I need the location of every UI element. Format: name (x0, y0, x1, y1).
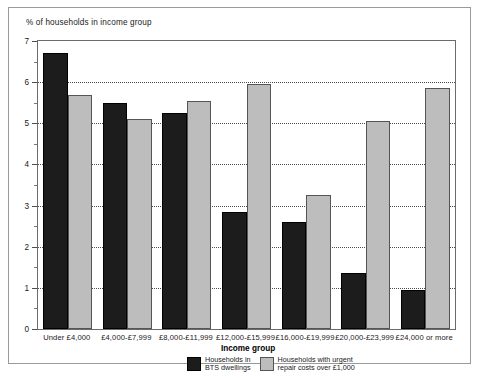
x-tick-label: £8,000-£11,999 (159, 333, 213, 342)
bar-repair-5 (366, 121, 391, 329)
bar-repair-3 (247, 84, 272, 329)
bar-bts-4 (282, 222, 307, 329)
y-tick-label: 4 (24, 160, 29, 169)
bar-repair-2 (187, 101, 212, 329)
chart-legend: Households in BTS dwellingsHouseholds wi… (187, 356, 355, 373)
y-tick-label: 7 (24, 37, 29, 46)
x-tick-label: £20,000-£23,999 (335, 333, 394, 342)
bar-bts-2 (162, 113, 187, 329)
legend-item: Households in BTS dwellings (187, 356, 251, 373)
legend-swatch-dark (187, 357, 201, 371)
bar-repair-6 (425, 88, 450, 329)
plot-inner (38, 41, 455, 329)
chart-y-axis-caption: % of households in income group (26, 18, 152, 27)
plot-area (37, 40, 456, 330)
bar-repair-4 (306, 195, 331, 329)
bar-repair-0 (68, 95, 93, 330)
bar-bts-1 (103, 103, 128, 329)
x-tick-label: £4,000-£7,999 (101, 333, 151, 342)
y-tick-label: 2 (24, 242, 29, 251)
y-axis: 01234567 (9, 40, 37, 330)
y-tick-label: 1 (24, 283, 29, 292)
y-tick-label: 3 (24, 201, 29, 210)
x-tick-label: £16,000-£19,999 (276, 333, 335, 342)
legend-label: Households with urgent repair costs over… (278, 356, 355, 373)
y-tick-label: 6 (24, 78, 29, 87)
legend-label: Households in BTS dwellings (205, 356, 251, 373)
legend-item: Households with urgent repair costs over… (260, 356, 355, 373)
bar-bts-5 (341, 273, 366, 329)
figure-frame: % of households in income group 01234567… (8, 7, 471, 364)
bar-bts-6 (401, 290, 426, 329)
x-tick-label: £12,000-£15,999 (216, 333, 275, 342)
bar-bts-0 (43, 53, 68, 329)
gridline (38, 82, 455, 83)
y-tick-label: 0 (24, 325, 29, 334)
x-axis-title: Income group (221, 344, 275, 353)
x-tick-label: £24,000 or more (396, 333, 453, 342)
y-tick-label: 5 (24, 119, 29, 128)
legend-swatch-light (260, 357, 274, 371)
x-tick-label: Under £4,000 (43, 333, 90, 342)
bar-bts-3 (222, 212, 247, 329)
bar-repair-1 (127, 119, 152, 329)
